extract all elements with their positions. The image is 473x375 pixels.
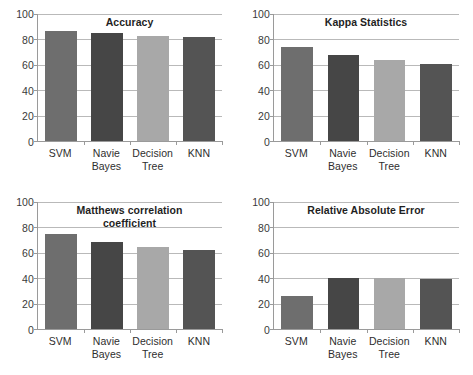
bar-slot-knn <box>413 202 459 329</box>
bar-navie_bayes <box>91 33 122 141</box>
x-axis-labels: SVMNavie BayesDecision TreeKNN <box>37 147 222 172</box>
x-axis-labels: SVMNavie BayesDecision TreeKNN <box>273 335 459 360</box>
x-axis-tick <box>84 141 85 145</box>
bar-decision_tree <box>374 278 405 329</box>
x-axis-tick <box>130 329 131 333</box>
y-axis-tick <box>270 141 274 142</box>
y-axis-tick-label: 100 <box>252 196 270 208</box>
x-axis-label-decision_tree: Decision Tree <box>366 147 413 172</box>
y-axis-tick-label: 100 <box>16 196 34 208</box>
chart-title-matthews-correlation-coefficient: Matthews correlationcoefficient <box>37 204 222 229</box>
chart-title-kappa-statistics: Kappa Statistics <box>273 16 459 29</box>
chart-panel-relative-absolute-error: 020406080100Relative Absolute ErrorSVMNa… <box>236 188 473 375</box>
x-axis-label-svm: SVM <box>273 147 320 172</box>
x-axis-tick <box>413 141 414 145</box>
bar-chart-figure: 020406080100AccuracySVMNavie BayesDecisi… <box>0 0 473 375</box>
bar-slot-navie_bayes <box>320 202 366 329</box>
x-axis-tick <box>459 141 460 145</box>
y-axis-tick-label: 0 <box>264 136 270 148</box>
y-axis-tick-label: 20 <box>22 110 34 122</box>
x-axis-labels: SVMNavie BayesDecision TreeKNN <box>273 147 459 172</box>
y-axis-labels: 020406080100 <box>244 14 270 142</box>
x-axis-label-svm: SVM <box>37 147 83 172</box>
y-axis-tick-label: 40 <box>22 273 34 285</box>
bar-decision_tree <box>374 60 405 141</box>
chart-title-line: coefficient <box>37 217 222 230</box>
x-axis-label-knn: KNN <box>176 335 222 360</box>
bar-knn <box>183 37 214 141</box>
bar-series <box>38 14 222 141</box>
chart-panel-accuracy: 020406080100AccuracySVMNavie BayesDecisi… <box>0 0 236 188</box>
bar-knn <box>420 64 451 141</box>
x-axis-tick <box>130 141 131 145</box>
chart-title-line: Matthews correlation <box>37 204 222 217</box>
x-axis-label-navie_bayes: Navie Bayes <box>83 335 129 360</box>
y-axis-tick <box>270 329 274 330</box>
bar-slot-svm <box>38 14 84 141</box>
bar-slot-navie_bayes <box>320 14 366 141</box>
x-axis-label-svm: SVM <box>273 335 320 360</box>
x-axis-label-decision_tree: Decision Tree <box>130 147 176 172</box>
x-axis-label-decision_tree: Decision Tree <box>366 335 413 360</box>
bar-slot-navie_bayes <box>84 14 130 141</box>
y-axis-tick-label: 0 <box>28 324 34 336</box>
y-axis-tick-label: 20 <box>258 110 270 122</box>
y-axis-tick-label: 60 <box>22 59 34 71</box>
plot-box <box>273 202 459 330</box>
y-axis-labels: 020406080100 <box>8 202 34 330</box>
x-axis-label-knn: KNN <box>176 147 222 172</box>
bar-svm <box>281 47 312 141</box>
y-axis-tick-label: 100 <box>252 8 270 20</box>
plot-area-relative-absolute-error: 020406080100Relative Absolute ErrorSVMNa… <box>236 188 473 375</box>
x-axis-tick <box>176 141 177 145</box>
bar-slot-svm <box>274 202 320 329</box>
y-axis-tick-label: 0 <box>28 136 34 148</box>
bar-decision_tree <box>137 247 168 329</box>
x-axis-label-knn: KNN <box>413 147 460 172</box>
plot-area-matthews-correlation-coefficient: 020406080100Matthews correlationcoeffici… <box>0 188 236 375</box>
y-axis-tick-label: 40 <box>22 85 34 97</box>
x-axis-tick <box>413 329 414 333</box>
x-axis-label-navie_bayes: Navie Bayes <box>320 147 367 172</box>
chart-title-relative-absolute-error: Relative Absolute Error <box>273 204 459 217</box>
bar-svm <box>281 296 312 329</box>
x-axis-label-decision_tree: Decision Tree <box>130 335 176 360</box>
bar-decision_tree <box>137 36 168 141</box>
y-axis-tick-label: 20 <box>258 298 270 310</box>
chart-title-line: Relative Absolute Error <box>273 204 459 217</box>
x-axis-label-knn: KNN <box>413 335 460 360</box>
y-axis-tick-label: 40 <box>258 273 270 285</box>
bar-knn <box>420 279 451 329</box>
bar-slot-decision_tree <box>367 202 413 329</box>
chart-panel-kappa-statistics: 020406080100Kappa StatisticsSVMNavie Bay… <box>236 0 473 188</box>
bar-slot-decision_tree <box>367 14 413 141</box>
plot-area-accuracy: 020406080100AccuracySVMNavie BayesDecisi… <box>0 0 236 188</box>
y-axis-tick-label: 0 <box>264 324 270 336</box>
bar-navie_bayes <box>328 55 359 141</box>
x-axis-tick <box>367 329 368 333</box>
bar-knn <box>183 250 214 329</box>
plot-area-kappa-statistics: 020406080100Kappa StatisticsSVMNavie Bay… <box>236 0 473 188</box>
x-axis-tick <box>176 329 177 333</box>
y-axis-tick <box>34 141 38 142</box>
x-axis-labels: SVMNavie BayesDecision TreeKNN <box>37 335 222 360</box>
bar-slot-decision_tree <box>130 14 176 141</box>
bar-svm <box>45 31 76 141</box>
chart-title-accuracy: Accuracy <box>37 16 222 29</box>
bar-navie_bayes <box>91 242 122 329</box>
y-axis-tick-label: 80 <box>22 34 34 46</box>
bar-series <box>274 202 459 329</box>
y-axis-tick <box>34 329 38 330</box>
x-axis-label-svm: SVM <box>37 335 83 360</box>
y-axis-tick-label: 100 <box>16 8 34 20</box>
plot-box <box>37 14 222 142</box>
bar-slot-knn <box>176 14 222 141</box>
x-axis-tick <box>320 329 321 333</box>
bar-series <box>274 14 459 141</box>
x-axis-label-navie_bayes: Navie Bayes <box>320 335 367 360</box>
bar-navie_bayes <box>328 278 359 329</box>
y-axis-tick-label: 60 <box>258 247 270 259</box>
bar-svm <box>45 234 76 329</box>
x-axis-tick <box>84 329 85 333</box>
chart-title-line: Kappa Statistics <box>273 16 459 29</box>
